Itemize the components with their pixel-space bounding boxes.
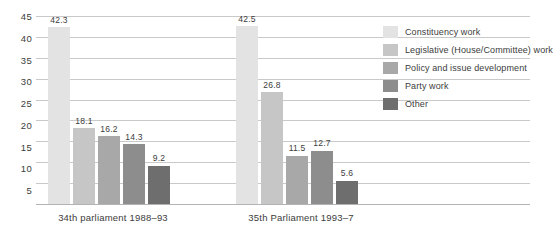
y-tick-30: 30 [2, 77, 32, 87]
gridline-baseline [36, 204, 530, 205]
legend-item-label: Constituency work [405, 27, 480, 37]
legend-item-party-work[interactable]: Party work [383, 78, 546, 94]
bar-value-label: 11.5 [289, 144, 306, 153]
legend-item-legislative-work[interactable]: Legislative (House/Committee) work [383, 42, 546, 58]
bar-fill [73, 128, 95, 204]
y-tick-5: 5 [2, 186, 32, 196]
legend-item-label: Policy and issue development [405, 63, 527, 73]
legend-item-other[interactable]: Other [383, 96, 546, 112]
bar-fill [336, 181, 358, 204]
bar-fill [123, 144, 145, 204]
bar-value-label: 42.5 [238, 15, 255, 24]
legend-item-constituency-work[interactable]: Constituency work [383, 24, 546, 40]
bar-value-label: 26.8 [263, 81, 280, 90]
bar-value-label: 14.3 [125, 133, 142, 142]
bar-fill [286, 156, 308, 204]
y-axis: 45 40 35 30 25 20 15 10 5 [0, 16, 32, 204]
y-tick-10: 10 [2, 164, 32, 174]
y-tick-45: 45 [2, 12, 32, 22]
legend-item-policy-development[interactable]: Policy and issue development [383, 60, 546, 76]
bar-fill [236, 26, 258, 204]
bar-fill [261, 92, 283, 204]
category-label-34th-parliament: 34th parliament 1988–93 [48, 212, 178, 223]
bar-value-label: 42.3 [50, 16, 67, 25]
bar-fill [48, 27, 70, 204]
bar-value-label: 12.7 [313, 139, 330, 148]
legend-swatch-icon [383, 98, 398, 110]
y-tick-15: 15 [2, 143, 32, 153]
legend-swatch-icon [383, 80, 398, 92]
legend-swatch-icon [383, 44, 398, 56]
legend-item-label: Legislative (House/Committee) work [405, 45, 553, 55]
bar-value-label: 5.6 [341, 169, 353, 178]
bar-fill [148, 166, 170, 204]
bar-fill [311, 151, 333, 204]
bar-value-label: 18.1 [75, 117, 92, 126]
bar-value-label: 16.2 [100, 125, 117, 134]
bar-fill [98, 136, 120, 204]
category-label-35th-parliament: 35th Parliament 1993–7 [236, 212, 366, 223]
legend-item-label: Party work [405, 81, 449, 91]
y-tick-35: 35 [2, 56, 32, 66]
y-tick-20: 20 [2, 121, 32, 131]
bar-group-35th-parliament: 42.5 26.8 11.5 12.7 5.6 [236, 16, 366, 204]
legend-swatch-icon [383, 62, 398, 74]
bar-group-34th-parliament: 42.3 18.1 16.2 14.3 9.2 [48, 16, 178, 204]
y-tick-25: 25 [2, 99, 32, 109]
bar-value-label: 9.2 [153, 154, 165, 163]
legend: Constituency work Legislative (House/Com… [383, 24, 546, 114]
y-tick-40: 40 [2, 34, 32, 44]
legend-swatch-icon [383, 26, 398, 38]
legend-item-label: Other [405, 99, 428, 109]
